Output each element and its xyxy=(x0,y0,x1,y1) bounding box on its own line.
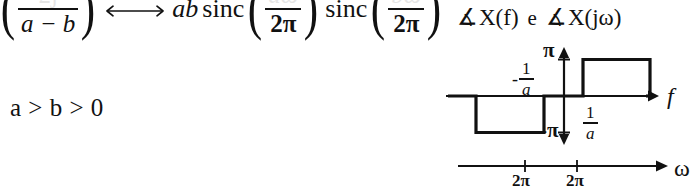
omega-tick-neg-numerator: 2π xyxy=(509,172,533,188)
sinc-2-open-paren: ( xyxy=(371,0,385,34)
pi-label-positive: π xyxy=(543,38,555,63)
sinc-2-denominator: 2π xyxy=(390,10,422,36)
plot-graphics xyxy=(440,34,699,184)
f-tick-neg-numerator: 1 xyxy=(519,60,534,78)
f-tick-pos-numerator: 1 xyxy=(583,104,598,122)
sinc-1-denominator: 2π xyxy=(267,10,299,36)
sinc-1-numerator: aω xyxy=(265,0,301,8)
f-tick-neg-denominator: a xyxy=(519,80,534,98)
omega-axis-line xyxy=(458,160,668,172)
equation-lhs: ( 2j a − b ) xyxy=(0,0,98,36)
condition-statement: a > b > 0 xyxy=(10,95,104,120)
plot-title: ∡ X(f) e ∡ X(jω) xyxy=(457,4,621,31)
omega-tick-negative-two-pi-over-a: - 2π a xyxy=(502,172,533,188)
fourier-transform-pair-equation: ( 2j a − b ) F ab sinc ( xyxy=(0,0,444,44)
omega-tick-pos-fraction: 2π a xyxy=(563,172,587,188)
pi-label-negative: -π xyxy=(540,118,559,143)
pi-label-negative-value: π xyxy=(547,118,559,143)
double-headed-arrow-icon xyxy=(103,4,167,18)
sinc-1-close-paren: ) xyxy=(304,0,318,34)
lhs-close-paren: ) xyxy=(81,0,95,34)
sinc-label-1: sinc xyxy=(198,0,245,22)
sinc-1-fraction: aω 2π xyxy=(265,0,301,36)
equation-rhs: ab sinc ( aω 2π ) sinc ( bω 2π ) xyxy=(172,0,444,36)
lhs-open-paren: ( xyxy=(1,0,15,34)
omega-tick-pos-numerator: 2π xyxy=(563,172,587,188)
lhs-fraction-numerator: 2j xyxy=(35,0,60,8)
page-canvas: ( 2j a − b ) F ab sinc ( xyxy=(0,0,699,188)
sinc-1-open-paren: ( xyxy=(248,0,262,34)
f-tick-neg-sign: - xyxy=(512,69,519,90)
transform-arrow-label: F xyxy=(129,0,139,2)
f-tick-pos-fraction: 1 a xyxy=(583,104,598,142)
lhs-fraction: 2j a − b xyxy=(18,0,78,36)
sinc-2-numerator: bω xyxy=(388,0,424,8)
phase-plot: ∡ X(f) e ∡ X(jω) xyxy=(440,0,699,188)
sinc-2-fraction: bω 2π xyxy=(388,0,424,36)
condition-text: a > b > 0 xyxy=(10,95,104,120)
angle-icon-2: ∡ xyxy=(546,4,568,31)
rhs-prefactor: ab xyxy=(172,0,198,22)
pi-label-negative-sign: - xyxy=(540,118,547,143)
omega-axis-label: ω xyxy=(674,155,690,182)
plot-title-first: X(f) xyxy=(479,5,519,31)
angle-icon-1: ∡ xyxy=(457,4,479,31)
omega-tick-neg-fraction: 2π a xyxy=(509,172,533,188)
f-tick-positive-one-over-a: 1 a xyxy=(582,104,598,142)
omega-tick-neg-sign: - xyxy=(502,181,509,189)
f-tick-neg-fraction: 1 a xyxy=(519,60,534,98)
plot-title-conjunction: e xyxy=(519,6,546,31)
f-tick-pos-denominator: a xyxy=(583,124,598,142)
omega-tick-positive-two-pi-over-a: 2π a xyxy=(562,172,587,188)
plot-title-second: X(jω) xyxy=(568,5,621,31)
lhs-fraction-denominator: a − b xyxy=(18,10,78,36)
fourier-transform-arrow: F xyxy=(103,0,167,18)
f-axis-label: f xyxy=(667,83,674,110)
f-tick-negative-one-over-a: - 1 a xyxy=(512,60,534,98)
sinc-label-2: sinc xyxy=(321,0,368,22)
